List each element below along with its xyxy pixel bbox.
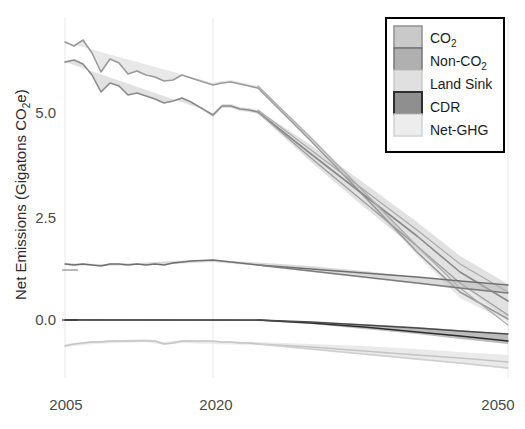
legend-swatch-co2 — [394, 26, 422, 48]
legend: CO2 Non-CO2 Land Sink CDR Net-GHG — [386, 18, 504, 152]
emissions-chart-figure: 5.0 2.5 0.0 2005 2020 2050 Net Emissions… — [0, 0, 525, 429]
x-tick-label-2020: 2020 — [199, 396, 232, 413]
chart-canvas: 5.0 2.5 0.0 2005 2020 2050 Net Emissions… — [0, 0, 525, 429]
x-tick-label-2050: 2050 — [481, 396, 514, 413]
legend-label-cdr: CDR — [430, 99, 460, 115]
y-tick-label-2point5: 2.5 — [35, 209, 56, 226]
legend-label-net-ghg: Net-GHG — [430, 122, 488, 138]
legend-swatch-cdr — [394, 92, 422, 114]
legend-swatch-non-co2 — [394, 48, 422, 70]
y-tick-label-0: 0.0 — [35, 311, 56, 328]
x-tick-label-2005: 2005 — [49, 396, 82, 413]
legend-swatch-net-ghg — [394, 114, 422, 136]
y-tick-label-5: 5.0 — [35, 104, 56, 121]
legend-swatch-land-sink — [394, 70, 422, 92]
legend-label-land-sink: Land Sink — [430, 76, 493, 92]
